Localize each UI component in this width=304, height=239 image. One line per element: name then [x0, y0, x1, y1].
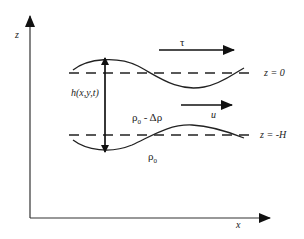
svg-text:ρ0 - Δρ: ρ0 - Δρ [132, 111, 163, 126]
upper-interface-curve [73, 60, 244, 88]
lower-interface-curve [73, 125, 244, 150]
upper-layer-density: ρ0 - Δρ [132, 111, 163, 126]
thickness-label: h(x,y,t) [71, 87, 99, 99]
velocity-label: u [211, 109, 216, 120]
z-axis-label: z [14, 29, 19, 40]
bottom-label: z = -H [259, 129, 287, 140]
two-layer-ocean-diagram: z x z = 0 z = -H h(x,y,t) τ u ρ0 - Δρ ρ0 [0, 0, 304, 239]
wind-stress-label: τ [180, 36, 185, 48]
x-axis-label: x [235, 219, 241, 230]
svg-text:ρ0: ρ0 [148, 150, 158, 165]
surface-label: z = 0 [263, 67, 285, 78]
lower-layer-density: ρ0 [148, 150, 158, 165]
